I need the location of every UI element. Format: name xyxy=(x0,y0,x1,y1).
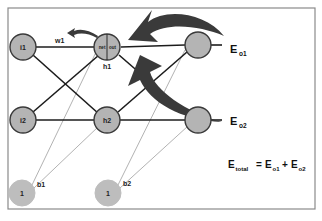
neural-network-diagram: i1 i2 net out h1 h2 1 1 w1 b1 b2 E o1 E … xyxy=(0,0,322,221)
eq-plus: + xyxy=(282,159,288,170)
eq-t1-main: E xyxy=(265,159,272,170)
node-h1-out: out xyxy=(109,45,116,50)
small-backprop-arrow xyxy=(67,28,98,38)
node-o1 xyxy=(185,32,211,58)
node-i1-label: i1 xyxy=(20,44,26,51)
eq-equals: = xyxy=(256,159,262,170)
backprop-arrow-o1 xyxy=(128,10,224,42)
node-h1-net: net xyxy=(99,45,106,50)
node-b1-value: 1 xyxy=(20,190,24,197)
eq-t2-main: E xyxy=(291,159,298,170)
eq-total-sub: total xyxy=(236,166,249,172)
node-i2-label: i2 xyxy=(20,117,26,124)
total-error-equation: E total = E o1 + E o2 xyxy=(228,159,306,172)
eq-total-main: E xyxy=(228,159,235,170)
eq-t1-sub: o1 xyxy=(273,166,281,172)
error-o1-sub: o1 xyxy=(239,50,247,57)
error-o2-main: E xyxy=(230,115,237,127)
weight-w1-label: w1 xyxy=(54,37,64,44)
eq-t2-sub: o2 xyxy=(299,166,307,172)
node-o2 xyxy=(185,107,211,133)
error-o1-main: E xyxy=(230,43,237,55)
node-b2-value: 1 xyxy=(106,190,110,197)
bias-b1-label: b1 xyxy=(37,181,45,188)
error-o2-sub: o2 xyxy=(239,122,247,129)
node-h1-label: h1 xyxy=(103,63,111,70)
node-h2-label: h2 xyxy=(103,117,111,124)
bias-b2-label: b2 xyxy=(123,180,131,187)
